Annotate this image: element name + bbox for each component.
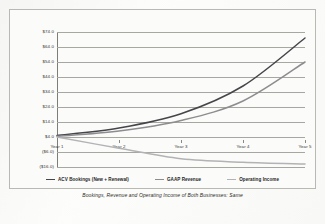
legend-item[interactable]: Operating Income xyxy=(227,177,279,182)
series-line xyxy=(57,137,305,164)
y-axis-tick-label: ($16.0) xyxy=(39,165,54,169)
y-axis-tick-label: ($6.0) xyxy=(42,150,54,154)
legend-item-label: Operating Income xyxy=(239,177,279,182)
x-axis-tick-mark xyxy=(305,140,306,143)
y-axis-tick-label: $24.0 xyxy=(43,105,55,109)
series-line xyxy=(57,62,305,136)
figure-caption: Bookings, Revenue and Operating Income o… xyxy=(0,192,325,198)
y-axis-tick-label: $14.0 xyxy=(43,120,55,124)
plot-area: $74.0$64.0$54.0$44.0$34.0$24.0$14.0$4.0(… xyxy=(57,32,305,167)
legend-swatch-gaap-revenue xyxy=(155,179,164,181)
legend-swatch-operating-income xyxy=(227,179,236,181)
series-lines xyxy=(57,32,305,167)
y-axis-tick-label: $44.0 xyxy=(43,75,55,79)
chart-legend: ACV Bookings (New + Renewal)GAAP Revenue… xyxy=(9,173,316,186)
chart-figure: $74.0$64.0$54.0$44.0$34.0$24.0$14.0$4.0(… xyxy=(0,0,325,224)
legend-item-label: GAAP Revenue xyxy=(167,177,201,182)
chart-plot-frame: $74.0$64.0$54.0$44.0$34.0$24.0$14.0$4.0(… xyxy=(9,9,316,189)
legend-item[interactable]: GAAP Revenue xyxy=(155,177,201,182)
y-axis-tick-label: $4.0 xyxy=(45,135,54,139)
y-axis-tick-label: $54.0 xyxy=(43,60,55,64)
y-axis-tick-label: $34.0 xyxy=(43,90,55,94)
legend-swatch-acv-bookings xyxy=(46,179,55,181)
gridline xyxy=(57,167,305,168)
legend-item-label: ACV Bookings (New + Renewal) xyxy=(58,177,129,182)
y-axis-tick-label: $74.0 xyxy=(43,30,55,34)
legend-item[interactable]: ACV Bookings (New + Renewal) xyxy=(46,177,129,182)
y-axis-tick-label: $64.0 xyxy=(43,45,55,49)
